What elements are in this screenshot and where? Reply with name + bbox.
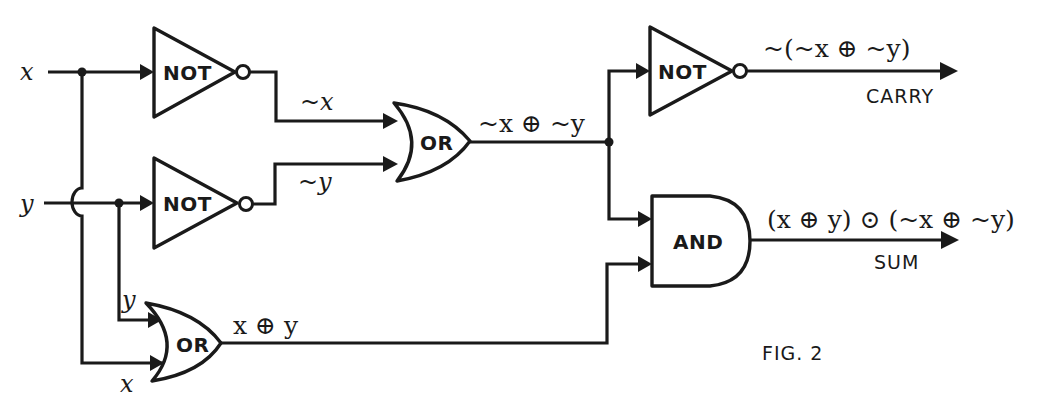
arrow-icon	[383, 156, 398, 172]
not-gate-1-label: NOT	[163, 61, 212, 85]
inversion-bubble-icon	[237, 66, 250, 79]
inversion-bubble-icon	[734, 65, 747, 78]
input-x: x	[20, 58, 164, 371]
half-adder-circuit-diagram: x y NOT ~x NOT ~y OR ~x ⊕ ~	[0, 0, 1045, 397]
signal-label-or2-out: x ⊕ y	[233, 311, 299, 340]
input-y-label: y	[19, 190, 34, 218]
signal-label-not-y: ~y	[298, 168, 332, 196]
sum-output-label: SUM	[874, 251, 919, 273]
arrow-icon	[638, 211, 652, 227]
or-gate-2: OR y x x ⊕ y	[120, 256, 652, 397]
signal-label-or2-in-x: x	[120, 370, 134, 397]
not-gate-2: NOT ~y	[154, 156, 398, 248]
arrow-icon	[940, 62, 958, 80]
arrow-icon	[140, 195, 154, 211]
carry-expression: ~(~x ⊕ ~y)	[763, 34, 910, 63]
arrow-icon	[383, 113, 398, 129]
wire-to-not3	[609, 71, 638, 142]
inversion-bubble-icon	[240, 198, 253, 211]
and-gate-label: AND	[673, 230, 723, 254]
not-gate-3: NOT ~(~x ⊕ ~y) CARRY	[650, 27, 958, 115]
arrow-icon	[140, 64, 154, 80]
arrow-icon	[638, 256, 652, 272]
arrow-icon	[636, 63, 650, 79]
not-gate-1: NOT ~x	[154, 28, 398, 129]
input-y: y	[19, 190, 162, 328]
not-gate-3-label: NOT	[658, 60, 707, 84]
wire-to-and-input-1	[609, 142, 640, 219]
carry-output-label: CARRY	[866, 85, 934, 107]
signal-label-or1-out: ~x ⊕ ~y	[478, 109, 586, 138]
or-gate-1: OR ~x ⊕ ~y	[394, 63, 652, 227]
signal-label-not-x: ~x	[300, 88, 334, 116]
sum-expression: (x ⊕ y) ⊙ (~x ⊕ ~y)	[767, 205, 1015, 234]
or-gate-2-label: OR	[176, 333, 209, 357]
input-x-label: x	[20, 58, 34, 86]
not-gate-2-label: NOT	[163, 192, 212, 216]
figure-caption: FIG. 2	[762, 342, 823, 364]
signal-label-or2-in-y: y	[121, 286, 136, 314]
and-gate: AND (x ⊕ y) ⊙ (~x ⊕ ~y) SUM	[652, 196, 1015, 286]
or-gate-1-label: OR	[420, 131, 453, 155]
